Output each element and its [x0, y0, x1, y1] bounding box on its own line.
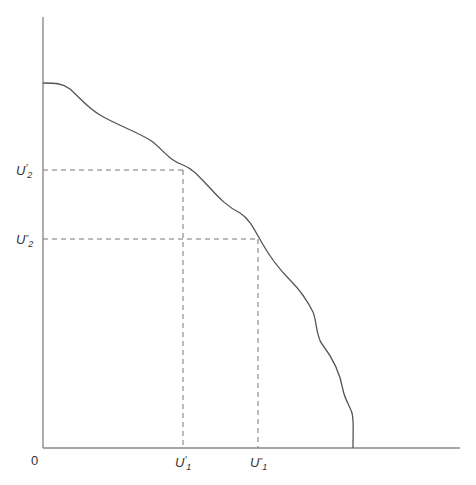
dashed-guide-lines — [43, 170, 258, 448]
y-tick-u2-prime: U'2 — [16, 163, 32, 180]
y-tick-u2-double-prime: U″2 — [16, 232, 33, 249]
utility-frontier-diagram: 0 U'2 U″2 U'1 U″1 — [0, 0, 476, 485]
origin-label: 0 — [31, 453, 38, 468]
frontier-curve — [43, 83, 353, 448]
x-tick-u1-double-prime: U″1 — [250, 455, 267, 472]
x-tick-u1-prime: U'1 — [175, 455, 191, 472]
